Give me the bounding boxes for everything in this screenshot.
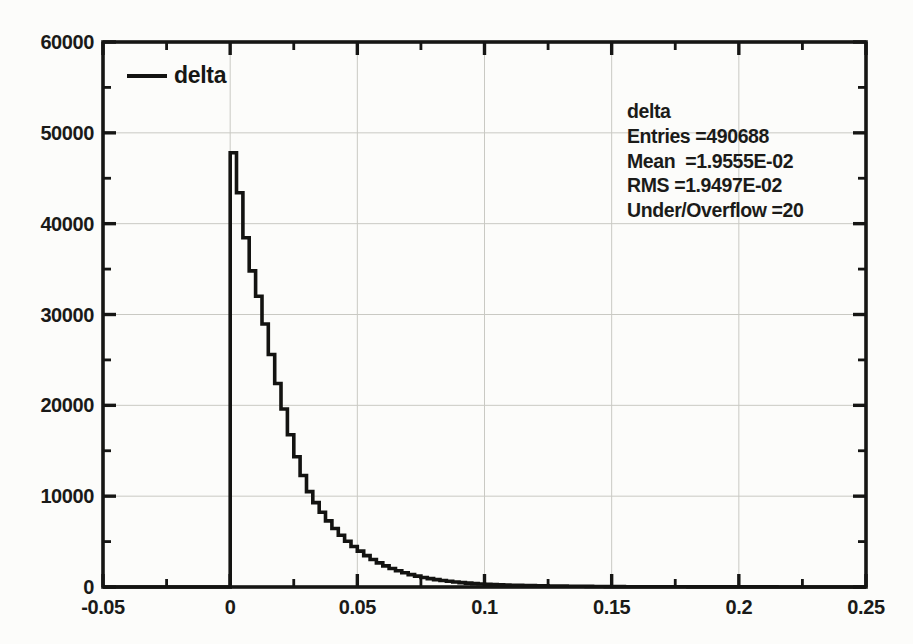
legend-line-swatch (127, 74, 167, 78)
x-tick-label: 0.15 (593, 596, 631, 618)
legend: delta (127, 62, 226, 89)
histogram-chart: -0.0500.050.10.150.20.250100002000030000… (0, 0, 913, 644)
y-tick-label: 50000 (40, 122, 94, 144)
legend-label: delta (174, 62, 226, 89)
y-tick-label: 60000 (40, 31, 94, 53)
x-tick-label: 0.1 (471, 596, 498, 618)
y-tick-label: 10000 (40, 485, 94, 507)
stats-entries: Entries =490688 (627, 124, 804, 149)
x-tick-label: 0 (225, 596, 236, 618)
stats-rms: RMS =1.9497E-02 (627, 173, 804, 198)
x-tick-label: -0.05 (81, 596, 125, 618)
y-tick-label: 40000 (40, 213, 94, 235)
y-tick-label: 30000 (40, 304, 94, 326)
x-tick-label: 0.05 (339, 596, 377, 618)
stats-title: delta (627, 99, 804, 124)
chart-canvas: -0.0500.050.10.150.20.250100002000030000… (0, 0, 913, 644)
stats-under-overflow: Under/Overflow =20 (627, 198, 804, 223)
y-tick-label: 0 (83, 576, 94, 598)
x-tick-label: 0.2 (726, 596, 753, 618)
y-tick-label: 20000 (40, 394, 94, 416)
stats-box: delta Entries =490688 Mean =1.9555E-02 R… (627, 99, 804, 223)
stats-mean: Mean =1.9555E-02 (627, 149, 804, 174)
x-tick-label: 0.25 (847, 596, 885, 618)
